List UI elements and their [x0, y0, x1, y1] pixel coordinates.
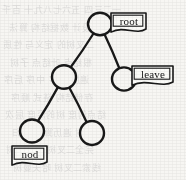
node-root[interactable]: [88, 13, 112, 35]
node-internal[interactable]: [52, 65, 76, 89]
edge-internal-to-right: [69, 87, 87, 122]
label-leave-text: leave: [137, 69, 169, 80]
edge-internal-to-nod: [38, 87, 58, 121]
node-nod[interactable]: [20, 120, 44, 143]
label-nod-text: nod: [17, 149, 43, 160]
edge-root-to-leave: [105, 35, 120, 69]
diagram-canvas: 一二三四 五六七八九十 百千程序设计 数据结构 算法二叉树的 定义与 性质根结点…: [0, 0, 186, 180]
node-leaf-right[interactable]: [80, 121, 104, 145]
label-root-text: root: [116, 16, 142, 27]
edge-root-to-internal: [71, 34, 94, 68]
